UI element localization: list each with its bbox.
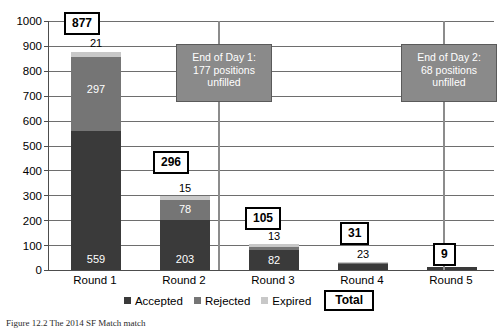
total-box-round-4[interactable]: 31	[340, 222, 369, 245]
figure-caption: Figure 12.2 The 2014 SF Match match	[6, 318, 326, 328]
annotation-day-2-line-1: End of Day 2:	[408, 51, 490, 64]
bar-label-round-4-accepted: 23	[338, 249, 388, 260]
bar-round-4[interactable]: 23	[338, 262, 388, 270]
legend-label-rejected: Rejected	[205, 295, 250, 307]
annotation-day-1-line-2: 177 positions	[183, 64, 265, 77]
y-axis-label-600: 600	[2, 116, 42, 127]
y-axis-label-100: 100	[2, 241, 42, 252]
x-axis-label-round-1: Round 1	[45, 274, 145, 286]
gridline-1000	[49, 21, 494, 22]
legend-swatch-rejected-icon	[194, 297, 201, 304]
y-axis-label-200: 200	[2, 216, 42, 227]
bar-segment-round-3-expired[interactable]	[249, 244, 299, 247]
y-axis-label-0: 0	[2, 265, 42, 276]
y-axis-label-700: 700	[2, 91, 42, 102]
bar-label-round-2-accepted: 203	[160, 254, 210, 265]
bar-segment-round-1-accepted[interactable]: 559	[71, 131, 121, 270]
stacked-bar-chart-figure: 1000 900 800 700 600 500 400 300 200 100…	[0, 0, 498, 328]
total-box-round-2[interactable]: 296	[153, 151, 189, 174]
bar-label-round-1-accepted: 559	[71, 254, 121, 265]
bar-segment-round-2-rejected[interactable]: 78	[160, 200, 210, 219]
annotation-day-1-line-3: unfilled	[183, 76, 265, 89]
annotation-day-2-line-2: 68 positions	[408, 64, 490, 77]
x-axis-label-round-4: Round 4	[312, 274, 412, 286]
bar-segment-round-4-accepted[interactable]	[338, 264, 388, 270]
bar-segment-round-4-expired[interactable]	[338, 262, 388, 263]
bar-round-2[interactable]: 203 78 15	[160, 196, 210, 270]
legend-label-expired: Expired	[272, 295, 311, 307]
bar-round-1[interactable]: 559 297 21	[71, 52, 121, 270]
legend-item-total[interactable]: Total	[324, 290, 374, 311]
y-axis-label-800: 800	[2, 66, 42, 77]
y-axis-label-400: 400	[2, 166, 42, 177]
bar-label-round-3-expired: 13	[249, 231, 299, 242]
bar-segment-round-1-rejected[interactable]: 297	[71, 57, 121, 131]
legend-swatch-expired-icon	[261, 297, 268, 304]
annotation-day-1-line-1: End of Day 1:	[183, 51, 265, 64]
legend-item-rejected[interactable]: Rejected	[194, 295, 250, 307]
y-axis-label-300: 300	[2, 191, 42, 202]
legend-label-accepted: Accepted	[135, 295, 183, 307]
y-axis-label-1000: 1000	[2, 16, 42, 27]
annotation-end-of-day-2[interactable]: End of Day 2: 68 positions unfilled	[401, 44, 497, 102]
bar-label-round-2-rejected: 78	[160, 204, 210, 215]
legend-swatch-accepted-icon	[124, 297, 131, 304]
total-box-round-3[interactable]: 105	[245, 207, 281, 230]
y-axis-label-500: 500	[2, 141, 42, 152]
bar-segment-round-3-rejected[interactable]	[249, 247, 299, 250]
annotation-day-2-line-3: unfilled	[408, 76, 490, 89]
chart-legend: Accepted Rejected Expired Total	[0, 290, 498, 311]
total-box-round-1[interactable]: 877	[64, 12, 100, 35]
bar-label-round-3-accepted: 82	[249, 255, 299, 266]
bar-label-round-1-expired: 21	[71, 38, 121, 49]
x-axis-label-round-3: Round 3	[223, 274, 323, 286]
bar-segment-round-5-accepted[interactable]	[427, 267, 477, 270]
bar-round-3[interactable]: 82 13	[249, 244, 299, 270]
annotation-end-of-day-1[interactable]: End of Day 1: 177 positions unfilled	[176, 44, 272, 102]
legend-item-accepted[interactable]: Accepted	[124, 295, 183, 307]
bar-segment-round-1-expired[interactable]	[71, 52, 121, 57]
bar-segment-round-3-accepted[interactable]: 82	[249, 250, 299, 270]
bar-segment-round-2-expired[interactable]	[160, 196, 210, 200]
bar-segment-round-2-accepted[interactable]: 203	[160, 220, 210, 271]
total-box-round-5[interactable]: 9	[433, 243, 456, 266]
bar-round-5[interactable]	[427, 267, 477, 270]
y-axis-label-900: 900	[2, 41, 42, 52]
bar-label-round-2-expired: 15	[160, 183, 210, 194]
legend-item-expired[interactable]: Expired	[261, 295, 311, 307]
x-axis-label-round-2: Round 2	[134, 274, 234, 286]
x-axis-label-round-5: Round 5	[401, 274, 498, 286]
bar-label-round-1-rejected: 297	[71, 84, 121, 95]
bar-segment-round-4-rejected[interactable]	[338, 263, 388, 264]
